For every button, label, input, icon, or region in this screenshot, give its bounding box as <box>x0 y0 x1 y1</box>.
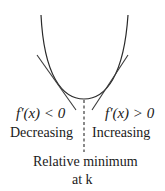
relative-minimum-caption: Relative minimum <box>33 155 138 169</box>
right-derivative-label: f′(x) > 0 <box>105 106 154 121</box>
parabola-curve <box>41 15 128 99</box>
at-k-caption: at k <box>72 173 93 187</box>
left-tangent-line <box>37 55 76 110</box>
left-derivative-label: f′(x) < 0 <box>16 106 65 121</box>
right-tangent-line <box>92 55 128 110</box>
relative-minimum-diagram: f′(x) < 0 f′(x) > 0 Decreasing Increasin… <box>0 0 165 191</box>
increasing-label: Increasing <box>92 126 150 140</box>
decreasing-label: Decreasing <box>10 126 73 140</box>
